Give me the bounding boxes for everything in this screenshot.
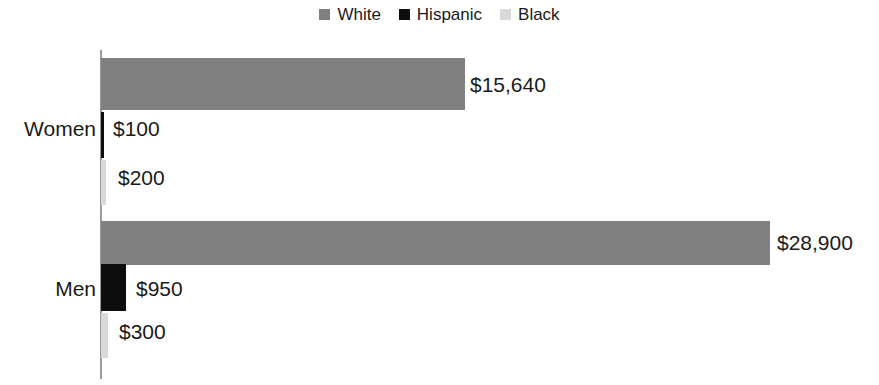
- category-label-men: Men: [0, 278, 96, 299]
- bar-fill-men-hispanic: [101, 264, 126, 311]
- bar-women-white: [101, 58, 465, 110]
- bar-fill-women-black: [101, 160, 106, 205]
- bar-fill-women-hispanic: [101, 112, 104, 158]
- bar-women-black: [101, 160, 106, 205]
- bar-value-women-hispanic: $100: [113, 118, 160, 139]
- bar-men-hispanic: [101, 264, 126, 311]
- bar-value-men-black: $300: [119, 321, 166, 342]
- bar-value-women-white: $15,640: [470, 74, 546, 95]
- bar-men-black: [101, 313, 108, 358]
- bar-fill-men-black: [101, 313, 108, 358]
- bar-women-hispanic: [101, 112, 104, 158]
- bar-value-men-white: $28,900: [777, 232, 853, 253]
- bar-value-men-hispanic: $950: [136, 278, 183, 299]
- bar-value-women-black: $200: [118, 167, 165, 188]
- category-label-women: Women: [0, 118, 96, 139]
- bar-fill-men-white: [101, 221, 770, 265]
- bar-men-white: [101, 221, 770, 265]
- bar-fill-women-white: [101, 58, 465, 110]
- bar-chart-plot-area: Women Men $15,640 $100 $200 $28,900 $950…: [0, 0, 879, 385]
